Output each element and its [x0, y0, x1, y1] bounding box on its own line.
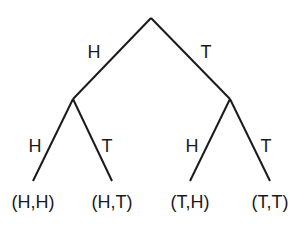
edge-root-h — [73, 18, 151, 99]
branch-label-tt: T — [261, 136, 272, 156]
outcome-hh: (H,H) — [12, 192, 55, 212]
branch-label-ht: T — [102, 136, 113, 156]
edge-root-t — [151, 18, 230, 99]
outcome-ht: (H,T) — [92, 192, 133, 212]
edges — [33, 18, 270, 181]
outcomes: (H,H) (H,T) (T,H) (T,T) — [12, 192, 289, 212]
branch-label-th: H — [186, 136, 199, 156]
outcome-tt: (T,T) — [252, 192, 289, 212]
branch-label-h1: H — [88, 42, 101, 62]
outcome-th: (T,H) — [171, 192, 210, 212]
tree-diagram: H T H T H T (H,H) (H,T) (T,H) (T,T) — [0, 0, 303, 232]
branch-label-t1: T — [201, 42, 212, 62]
branch-labels: H T H T H T — [29, 42, 272, 156]
branch-label-hh: H — [29, 136, 42, 156]
